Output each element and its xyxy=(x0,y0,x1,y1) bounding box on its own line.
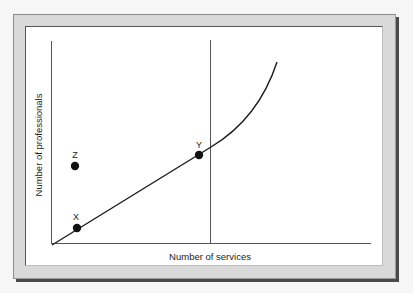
data-curve xyxy=(52,62,277,245)
y-axis-label: Number of professionals xyxy=(33,93,44,196)
point-y-marker xyxy=(195,151,203,159)
point-z-label: Z xyxy=(72,150,78,160)
point-y-label: Y xyxy=(196,140,202,150)
x-axis-label: Number of services xyxy=(169,251,251,262)
point-x-marker xyxy=(73,224,81,232)
chart: X Y Z Number of services Number of profe… xyxy=(0,0,413,293)
point-z-marker xyxy=(71,162,79,170)
point-x-label: X xyxy=(73,212,79,222)
